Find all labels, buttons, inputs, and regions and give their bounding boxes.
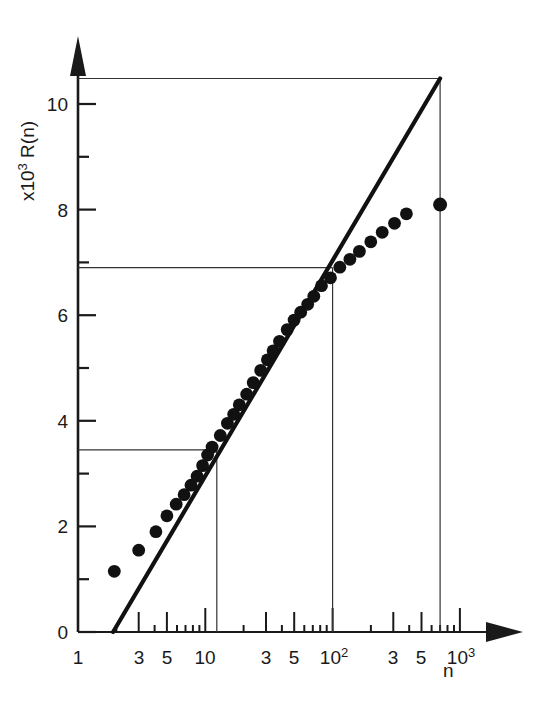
x-tick-label-100-text: 10 [320, 647, 341, 668]
y-axis-minor-ticks [78, 157, 89, 579]
x-axis-title: n [443, 660, 454, 682]
data-point [376, 226, 389, 239]
construction-lines [78, 79, 440, 633]
data-point [333, 261, 346, 274]
data-point [353, 245, 366, 258]
data-point [233, 398, 246, 411]
x-tick-label-3: 3 [134, 648, 145, 667]
y-axis-title-prefix: x10 [17, 170, 38, 201]
data-point [150, 525, 163, 538]
data-point [132, 544, 145, 557]
data-point [240, 388, 253, 401]
y-tick-label-0: 0 [46, 623, 68, 642]
data-point [324, 271, 337, 284]
x-tick-label-500: 5 [416, 648, 427, 667]
x-tick-label-50: 5 [289, 648, 300, 667]
y-tick-label-4: 4 [46, 412, 68, 431]
x-axis-arrowhead [486, 622, 523, 642]
x-tick-label-100: 102 [320, 648, 348, 667]
x-tick-label-1000-exponent: 3 [468, 645, 475, 660]
data-point [254, 364, 267, 377]
x-tick-label-30: 3 [261, 648, 272, 667]
data-point [273, 335, 286, 348]
data-point-series [108, 198, 447, 578]
y-axis-title: x103 R(n) [17, 101, 39, 221]
data-point [388, 217, 401, 230]
x-tick-label-10: 10 [194, 648, 215, 667]
x-axis-ticks [78, 608, 460, 632]
y-tick-label-8: 8 [46, 201, 68, 220]
data-point [307, 290, 320, 303]
figure-container: 0 2 4 6 8 10 1 3 5 10 3 5 102 3 5 103 x1… [0, 0, 546, 717]
y-tick-label-2: 2 [46, 517, 68, 536]
y-axis-title-exponent: 3 [15, 163, 30, 170]
x-tick-label-1: 1 [73, 648, 84, 667]
y-tick-label-6: 6 [46, 306, 68, 325]
plot-canvas [0, 0, 546, 717]
data-point [400, 207, 413, 220]
data-point [161, 509, 174, 522]
data-point [364, 235, 377, 248]
y-tick-label-10: 10 [36, 95, 68, 114]
data-point [247, 376, 260, 389]
data-point [214, 429, 227, 442]
data-point [206, 441, 219, 454]
x-tick-label-300: 3 [388, 648, 399, 667]
y-axis-arrowhead [70, 36, 86, 76]
data-point [433, 198, 447, 212]
x-tick-label-100-exponent: 2 [341, 645, 348, 660]
data-point [108, 565, 121, 578]
y-axis-title-suffix: R(n) [17, 121, 38, 163]
x-tick-label-5: 5 [162, 648, 173, 667]
